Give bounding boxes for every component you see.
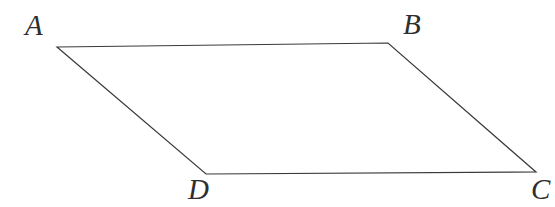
vertex-label-a: A [25,11,43,40]
parallelogram-figure [0,0,555,207]
vertex-label-c: C [531,175,550,204]
vertex-label-d: D [188,175,209,204]
parallelogram-outline [57,43,536,174]
vertex-label-b: B [403,10,421,39]
figure-canvas: A B C D [0,0,555,207]
